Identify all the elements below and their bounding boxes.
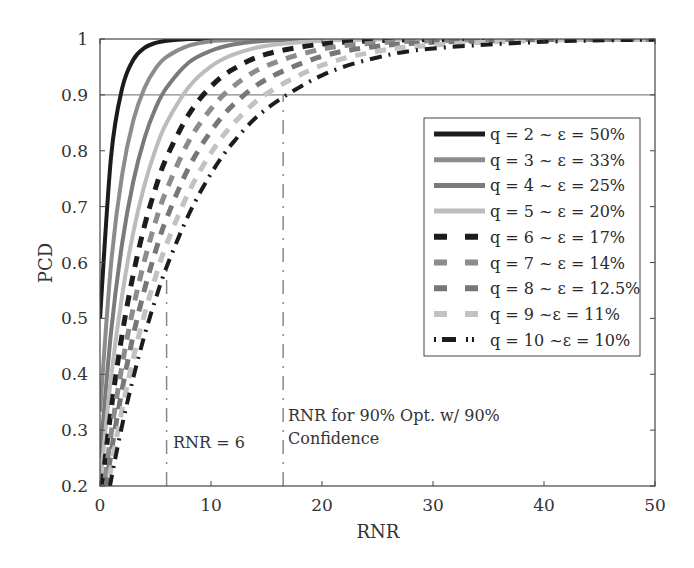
pcd-vs-rnr-chart: 01020304050 0.20.30.40.50.60.70.80.91 RN… [0, 0, 694, 568]
y-tick-label: 0.9 [61, 85, 88, 105]
legend-label-q2: q = 2 ~ ε = 50% [490, 125, 625, 144]
legend-label-q8: q = 8 ~ ε = 12.5% [490, 279, 640, 298]
y-tick-label: 1 [77, 29, 88, 49]
x-tick-label: 0 [95, 495, 106, 515]
y-axis-title: PCD [35, 243, 56, 283]
y-tick-label: 0.5 [61, 308, 88, 328]
y-tick-label: 0.6 [61, 253, 88, 273]
annotation-rnr-90-line1: RNR for 90% Opt. w/ 90% [288, 406, 500, 425]
x-tick-label: 30 [422, 495, 444, 515]
legend-label-q10: q = 10 ~ε = 10% [490, 331, 630, 350]
legend-label-q5: q = 5 ~ ε = 20% [490, 202, 625, 221]
annotation-rnr-6: RNR = 6 [173, 433, 245, 452]
y-tick-label: 0.8 [61, 141, 88, 161]
x-tick-label: 10 [200, 495, 222, 515]
x-tick-label: 20 [311, 495, 333, 515]
legend: q = 2 ~ ε = 50%q = 3 ~ ε = 33%q = 4 ~ ε … [424, 118, 640, 356]
legend-label-q6: q = 6 ~ ε = 17% [490, 228, 625, 247]
legend-label-q7: q = 7 ~ ε = 14% [490, 254, 625, 273]
y-tick-label: 0.4 [61, 364, 88, 384]
annotation-rnr-90-line2: Confidence [288, 429, 379, 448]
y-tick-label: 0.7 [61, 197, 88, 217]
legend-label-q9: q = 9 ~ε = 11% [490, 305, 620, 324]
x-tick-label: 50 [644, 495, 666, 515]
legend-label-q3: q = 3 ~ ε = 33% [490, 151, 625, 170]
y-tick-label: 0.2 [61, 476, 88, 496]
x-tick-label: 40 [533, 495, 555, 515]
legend-label-q4: q = 4 ~ ε = 25% [490, 176, 625, 195]
y-tick-label: 0.3 [61, 420, 88, 440]
x-axis-title: RNR [357, 521, 400, 542]
